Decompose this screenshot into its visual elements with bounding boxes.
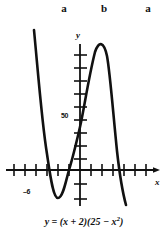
x-axis-arrow (153, 167, 160, 173)
equation-prefix: y = (x + 2)(25 − x (45, 216, 117, 227)
x-axis-label: x (155, 177, 160, 187)
y-axis-label: y (76, 30, 80, 40)
graph-figure: a b a (0, 0, 168, 234)
plot-area: y x 50 –6 (0, 14, 168, 210)
equation-suffix: ) (120, 216, 123, 227)
equation-caption: y = (x + 2)(25 − x2) (0, 213, 168, 228)
y-tick-label-50: 50 (61, 112, 68, 120)
x-tick-label-neg6: –6 (23, 188, 30, 196)
cubic-curve-plot (0, 14, 168, 210)
